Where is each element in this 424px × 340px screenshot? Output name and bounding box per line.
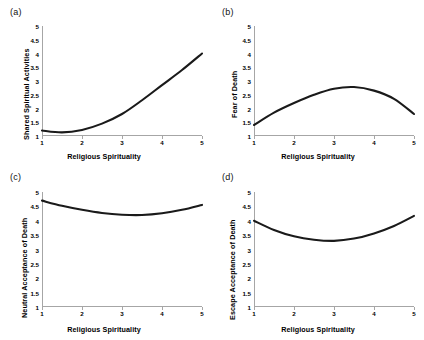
panel-c-tag: (c) xyxy=(10,172,21,182)
panel-d-x-axis-title: Religious Spirituality xyxy=(228,325,408,334)
panel-c-xtick: 5 xyxy=(200,310,203,317)
panel-a-ytick: 4 xyxy=(36,50,39,57)
panel-d-ytick: 2 xyxy=(248,275,251,282)
panel-b-ytick: 4.5 xyxy=(242,36,251,43)
panel-c-ytick: 2.5 xyxy=(30,260,39,267)
panel-d-ytick: 5 xyxy=(248,189,251,196)
panel-b-ytick: 3 xyxy=(248,78,251,85)
panel-b-ytick: 1 xyxy=(248,133,251,140)
panel-a-ytick: 4.5 xyxy=(30,36,39,43)
panel-a-xtick: 4 xyxy=(160,139,163,146)
panel-d: (d) Escape Acceptance of Death Religious… xyxy=(212,170,424,340)
panel-a-curve xyxy=(42,26,202,136)
panel-d-ytick: 3.5 xyxy=(242,232,251,239)
panel-b-ytick: 2.5 xyxy=(242,91,251,98)
panel-b-ytick: 3.5 xyxy=(242,64,251,71)
panel-c-ytick: 1.5 xyxy=(30,289,39,296)
panel-d-xtick: 4 xyxy=(372,310,375,317)
panel-b-ytick: 5 xyxy=(248,23,251,30)
panel-b-plot-area: 1 1.5 2 2.5 3 3.5 4 4.5 5 1 2 3 4 5 xyxy=(254,26,414,136)
panel-c-ytick: 2 xyxy=(36,275,39,282)
panel-c-ytick: 1 xyxy=(36,304,39,311)
panel-d-plot-area: 1 1.5 2 2.5 3 3.5 4 4.5 5 1 2 3 4 5 xyxy=(254,192,414,307)
panel-b-curve xyxy=(254,26,414,136)
panel-a-x-axis-title: Religious Spirituality xyxy=(14,152,194,161)
panel-d-tag: (d) xyxy=(222,172,234,182)
panel-c: (c) Neutral Acceptance of Death Religiou… xyxy=(0,170,212,340)
panel-d-xtick: 2 xyxy=(292,310,295,317)
panel-c-xtick: 3 xyxy=(120,310,123,317)
panel-c-y-axis-title: Neutral Acceptance of Death xyxy=(20,218,29,318)
panel-b-ytick: 2 xyxy=(248,105,251,112)
panel-b-x-axis-title: Religious Spirituality xyxy=(228,152,408,161)
panel-a-plot-area: 1 1.5 2 2.5 3 3.5 4 4.5 5 1 2 3 4 5 xyxy=(42,26,202,136)
panel-a-xtick: 3 xyxy=(120,139,123,146)
panel-c-curve xyxy=(42,192,202,307)
panel-d-curve xyxy=(254,192,414,307)
panel-a-ytick: 5 xyxy=(36,23,39,30)
panel-a-ytick: 1 xyxy=(36,133,39,140)
panel-c-plot-area: 1 1.5 2 2.5 3 3.5 4 4.5 5 1 2 3 4 5 xyxy=(42,192,202,307)
panel-b-xtick: 2 xyxy=(292,139,295,146)
panel-a-xtick: 2 xyxy=(80,139,83,146)
panel-d-xtick: 1 xyxy=(252,310,255,317)
panel-d-ytick: 2.5 xyxy=(242,260,251,267)
panel-a-ytick: 3.5 xyxy=(30,64,39,71)
four-panel-figure: (a) Shared Spiritual Activities Religiou… xyxy=(0,0,424,340)
panel-c-x-axis-title: Religious Spirituality xyxy=(14,325,194,334)
panel-d-ytick: 1 xyxy=(248,304,251,311)
panel-a-ytick: 3 xyxy=(36,78,39,85)
panel-b-ytick: 1.5 xyxy=(242,119,251,126)
panel-c-ytick: 5 xyxy=(36,189,39,196)
panel-d-xtick: 3 xyxy=(332,310,335,317)
panel-b: (b) Fear of Death Religious Spirituality… xyxy=(212,0,424,170)
panel-c-ytick: 3.5 xyxy=(30,232,39,239)
panel-a-tag: (a) xyxy=(10,7,22,17)
panel-d-xtick: 5 xyxy=(412,310,415,317)
panel-b-xtick: 3 xyxy=(332,139,335,146)
panel-a-xtick: 1 xyxy=(40,139,43,146)
panel-d-ytick: 4.5 xyxy=(242,203,251,210)
panel-b-xtick: 4 xyxy=(372,139,375,146)
panel-c-xtick: 1 xyxy=(40,310,43,317)
panel-a: (a) Shared Spiritual Activities Religiou… xyxy=(0,0,212,170)
panel-c-xtick: 2 xyxy=(80,310,83,317)
panel-c-ytick: 4.5 xyxy=(30,203,39,210)
panel-d-ytick: 1.5 xyxy=(242,289,251,296)
panel-a-xtick: 5 xyxy=(200,139,203,146)
panel-b-tag: (b) xyxy=(222,7,234,17)
panel-b-y-axis-title: Fear of Death xyxy=(230,71,239,118)
panel-a-ytick: 2 xyxy=(36,105,39,112)
panel-b-ytick: 4 xyxy=(248,50,251,57)
panel-c-ytick: 4 xyxy=(36,217,39,224)
panel-b-xtick: 5 xyxy=(412,139,415,146)
panel-d-ytick: 4 xyxy=(248,217,251,224)
panel-a-ytick: 1.5 xyxy=(30,119,39,126)
panel-a-ytick: 2.5 xyxy=(30,91,39,98)
panel-d-ytick: 3 xyxy=(248,246,251,253)
panel-c-xtick: 4 xyxy=(160,310,163,317)
panel-d-y-axis-title: Escape Acceptance of Death xyxy=(228,219,237,320)
panel-c-ytick: 3 xyxy=(36,246,39,253)
panel-b-xtick: 1 xyxy=(252,139,255,146)
